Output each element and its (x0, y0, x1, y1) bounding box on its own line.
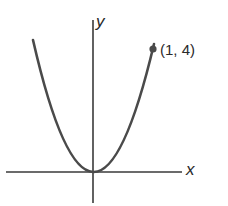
point-label: (1, 4) (160, 42, 195, 57)
point-marker (149, 45, 156, 52)
y-axis-label: y (96, 13, 105, 30)
x-axis-label: x (186, 161, 195, 178)
